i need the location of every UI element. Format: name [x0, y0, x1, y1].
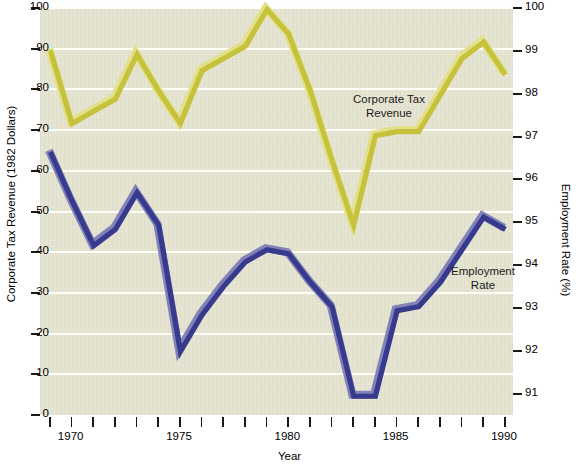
x-axis-title-text: Year: [278, 450, 301, 462]
x-tick: [396, 417, 398, 427]
x-tick-label: 1980: [275, 431, 301, 443]
y-tick-label-left: 30: [36, 286, 49, 298]
x-tick: [222, 417, 224, 427]
plot-area: [40, 8, 513, 415]
x-tick: [374, 417, 376, 427]
series-lines: [40, 8, 513, 415]
y-tick-right: [513, 350, 522, 352]
y-tick-right: [513, 307, 522, 309]
x-tick: [244, 417, 246, 427]
x-tick: [287, 417, 289, 427]
y-tick-label-left: 20: [36, 327, 49, 339]
x-tick: [482, 417, 484, 427]
chart-figure: Corporate Tax Revenue (1982 Dollars) Emp…: [0, 0, 579, 472]
y-axis-left-title-text: Corporate Tax Revenue (1982 Dollars): [5, 105, 17, 302]
y-tick-label-right: 97: [525, 130, 538, 142]
y-tick-label-right: 91: [525, 387, 538, 399]
x-tick-label: 1975: [166, 431, 192, 443]
y-tick-right: [513, 136, 522, 138]
x-tick-label: 1970: [58, 431, 84, 443]
y-tick-label-right: 100: [525, 1, 544, 13]
y-tick-label-right: 98: [525, 87, 538, 99]
x-tick: [136, 417, 138, 427]
y-tick-label-left: 60: [36, 164, 49, 176]
x-tick: [417, 417, 419, 427]
y-tick-left: [31, 414, 40, 416]
corporate-tax-revenue-label: Corporate Tax Revenue: [333, 92, 445, 120]
y-axis-left-title: Corporate Tax Revenue (1982 Dollars): [2, 0, 20, 407]
y-tick-right: [513, 221, 522, 223]
x-tick: [352, 417, 354, 427]
y-tick-right: [513, 178, 522, 180]
y-tick-label-left: 90: [36, 42, 49, 54]
y-tick-right: [513, 50, 522, 52]
x-tick: [114, 417, 116, 427]
x-tick: [179, 417, 181, 427]
x-tick: [461, 417, 463, 427]
x-tick: [331, 417, 333, 427]
y-tick-right: [513, 393, 522, 395]
x-tick-label: 1990: [491, 431, 517, 443]
y-tick-label-left: 80: [36, 82, 49, 94]
y-tick-label-right: 92: [525, 344, 538, 356]
x-axis-title: Year: [0, 450, 579, 462]
y-tick-right: [513, 93, 522, 95]
y-tick-label-right: 95: [525, 215, 538, 227]
x-tick: [49, 417, 51, 427]
employment-rate-label: Employment Rate: [437, 264, 529, 292]
x-tick: [266, 417, 268, 427]
x-tick-label: 1985: [383, 431, 409, 443]
x-tick: [157, 417, 159, 427]
x-tick: [201, 417, 203, 427]
y-tick-label-right: 93: [525, 301, 538, 313]
y-tick-label-left: 70: [36, 123, 49, 135]
y-tick-label-left: 40: [36, 245, 49, 257]
x-tick: [504, 417, 506, 427]
x-tick: [71, 417, 73, 427]
x-tick: [439, 417, 441, 427]
series-highlight-1: [49, 150, 504, 394]
y-tick-label-left: 100: [30, 1, 49, 13]
y-axis-right-title-text: Employment Rate (%): [560, 184, 572, 296]
y-tick-right: [513, 7, 522, 9]
y-tick-label-right: 99: [525, 44, 538, 56]
y-tick-label-left: 50: [36, 205, 49, 217]
y-tick-label-right: 96: [525, 172, 538, 184]
x-tick: [309, 417, 311, 427]
y-axis-right-title: Employment Rate (%): [557, 110, 575, 370]
y-tick-label-left: 10: [36, 367, 49, 379]
x-tick: [92, 417, 94, 427]
